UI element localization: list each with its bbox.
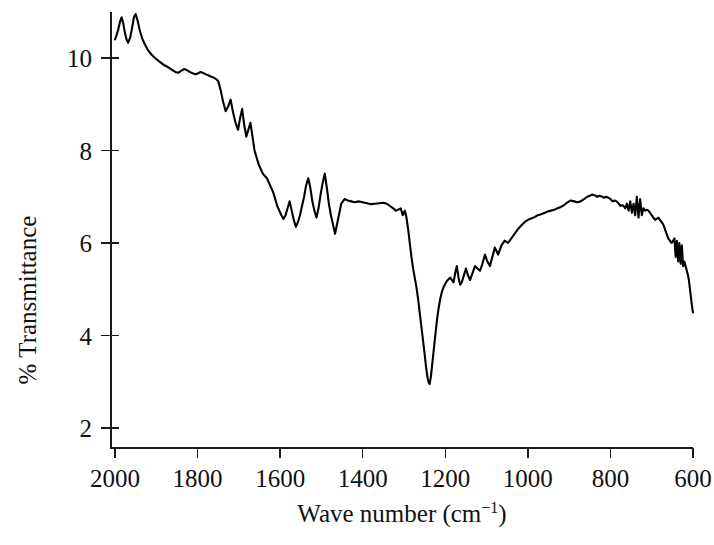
y-tick-label-10: 10 xyxy=(67,45,92,72)
x-axis-title-superscript: −1 xyxy=(481,499,498,516)
x-tick-label-1800: 1800 xyxy=(173,465,223,492)
x-axis-title: Wave number (cm−1) xyxy=(297,499,506,528)
x-tick-label-600: 600 xyxy=(674,465,712,492)
spectrum-plot: 246810 200018001600140012001000800600 % … xyxy=(0,0,714,545)
y-tick-label-2: 2 xyxy=(80,415,93,442)
x-axis-title-main: Wave number (cm xyxy=(297,500,482,528)
ir-spectrum-figure: 246810 200018001600140012001000800600 % … xyxy=(0,0,714,545)
y-axis-tick-labels: 246810 xyxy=(67,45,93,442)
x-tick-label-800: 800 xyxy=(592,465,630,492)
x-tick-label-1200: 1200 xyxy=(420,465,470,492)
x-tick-label-2000: 2000 xyxy=(90,465,140,492)
plot-axes xyxy=(111,12,693,448)
spectrum-trace xyxy=(115,14,693,384)
y-tick-label-6: 6 xyxy=(80,230,93,257)
x-axis-title-close: ) xyxy=(498,500,506,528)
x-tick-label-1600: 1600 xyxy=(255,465,305,492)
y-axis-title: % Transmittance xyxy=(14,216,41,385)
y-axis-ticks xyxy=(101,58,119,428)
y-tick-label-4: 4 xyxy=(80,323,93,350)
x-axis-tick-labels: 200018001600140012001000800600 xyxy=(90,465,712,492)
x-tick-label-1400: 1400 xyxy=(338,465,388,492)
x-axis-ticks xyxy=(115,448,693,458)
x-tick-label-1000: 1000 xyxy=(503,465,553,492)
y-tick-label-8: 8 xyxy=(80,138,93,165)
